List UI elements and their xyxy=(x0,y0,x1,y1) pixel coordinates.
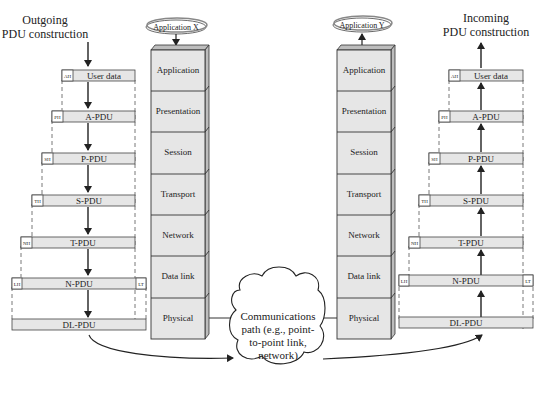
svg-text:AH: AH xyxy=(64,74,72,79)
svg-text:network): network) xyxy=(258,349,298,362)
svg-text:P-PDU: P-PDU xyxy=(81,154,108,164)
outgoing-pdu-t: NH T-PDU xyxy=(21,237,135,248)
incoming-pdu-user-data: AH User data xyxy=(449,70,523,81)
incoming-pdu-t: NH T-PDU xyxy=(409,237,523,248)
outgoing-pdu-user-data: AH User data xyxy=(62,70,135,81)
layer-y-transport: Transport xyxy=(347,189,382,199)
outgoing-pdu-dl: DL-PDU xyxy=(12,319,146,330)
incoming-pdu-s: TH S-PDU xyxy=(419,195,523,206)
layer-y-session: Session xyxy=(350,147,378,157)
svg-text:TH: TH xyxy=(34,199,41,204)
svg-text:Application Y: Application Y xyxy=(339,21,384,30)
svg-text:T-PDU: T-PDU xyxy=(458,238,484,248)
incoming-pdu-dl: DL-PDU xyxy=(399,317,533,328)
svg-text:DL-PDU: DL-PDU xyxy=(450,318,483,328)
svg-text:NH: NH xyxy=(411,241,419,246)
svg-text:DL-PDU: DL-PDU xyxy=(63,320,96,330)
svg-text:path (e.g., point-: path (e.g., point- xyxy=(241,323,314,336)
outgoing-panel: Outgoing PDU construction AH xyxy=(2,13,146,330)
svg-text:TH: TH xyxy=(421,199,428,204)
incoming-pdu-n: LH LT N-PDU xyxy=(399,275,533,286)
layer-x-presentation: Presentation xyxy=(156,106,201,116)
incoming-panel: Incoming PDU construction AH User dat xyxy=(399,11,533,330)
layer-y-application: Application xyxy=(343,65,386,75)
svg-text:User data: User data xyxy=(474,71,508,81)
outgoing-title-1: Outgoing xyxy=(22,13,67,27)
application-x-ellipse: Application X xyxy=(146,18,207,34)
svg-text:S-PDU: S-PDU xyxy=(76,196,103,206)
svg-text:User data: User data xyxy=(87,71,121,81)
svg-text:A-PDU: A-PDU xyxy=(85,112,113,122)
stack-application-y: Application Y Application Presentation S… xyxy=(333,16,395,339)
application-y-ellipse: Application Y xyxy=(333,16,392,32)
svg-text:A-PDU: A-PDU xyxy=(472,112,500,122)
stack-application-x: Application X Application Presentation S… xyxy=(146,18,209,339)
svg-text:N-PDU: N-PDU xyxy=(65,279,93,289)
svg-text:LH: LH xyxy=(401,279,408,284)
svg-text:AH: AH xyxy=(451,74,459,79)
layer-x-application: Application xyxy=(157,65,200,75)
outgoing-title-2: PDU construction xyxy=(2,27,88,41)
svg-text:SH: SH xyxy=(44,157,51,162)
incoming-pdu-a: PH A-PDU xyxy=(439,111,523,122)
layer-x-data-link: Data link xyxy=(161,271,195,281)
outgoing-pdu-p: SH P-PDU xyxy=(42,153,135,164)
layer-y-presentation: Presentation xyxy=(342,106,387,116)
layer-x-network: Network xyxy=(162,230,194,240)
layer-y-network: Network xyxy=(348,230,380,240)
svg-text:SH: SH xyxy=(431,157,438,162)
svg-text:to-point link,: to-point link, xyxy=(249,336,307,348)
communications-cloud: Communications path (e.g., point- to-poi… xyxy=(209,267,337,364)
incoming-pdu-p: SH P-PDU xyxy=(429,153,523,164)
svg-text:P-PDU: P-PDU xyxy=(468,154,495,164)
svg-text:N-PDU: N-PDU xyxy=(452,276,480,286)
layer-y-data-link: Data link xyxy=(347,271,381,281)
layer-x-transport: Transport xyxy=(161,189,196,199)
layer-x-session: Session xyxy=(164,147,192,157)
layer-x-physical: Physical xyxy=(163,313,194,323)
svg-text:LT: LT xyxy=(138,282,144,287)
outgoing-pdu-a: PH A-PDU xyxy=(52,111,135,122)
svg-text:S-PDU: S-PDU xyxy=(463,196,490,206)
svg-text:T-PDU: T-PDU xyxy=(70,238,96,248)
layer-y-physical: Physical xyxy=(349,313,380,323)
svg-text:Communications: Communications xyxy=(240,310,315,322)
svg-text:PH: PH xyxy=(54,115,61,120)
svg-text:Application X: Application X xyxy=(153,23,199,32)
incoming-title-1: Incoming xyxy=(463,11,509,25)
outgoing-pdu-n: LH LT N-PDU xyxy=(12,278,146,289)
osi-diagram: Outgoing PDU construction AH xyxy=(0,0,543,401)
incoming-title-2: PDU construction xyxy=(443,25,529,39)
outgoing-pdu-s: TH S-PDU xyxy=(32,195,135,206)
svg-text:LT: LT xyxy=(525,279,531,284)
svg-text:LH: LH xyxy=(14,282,21,287)
svg-text:NH: NH xyxy=(23,241,31,246)
svg-text:PH: PH xyxy=(441,115,448,120)
